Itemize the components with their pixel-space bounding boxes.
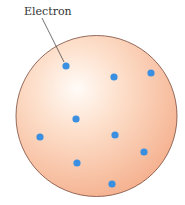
- plum-pudding-diagram: [0, 0, 185, 205]
- electron-dot: [140, 148, 147, 155]
- electron-dot: [110, 73, 117, 80]
- electron-label: Electron: [24, 5, 72, 18]
- positive-sphere: [16, 36, 177, 197]
- electron-dot: [72, 115, 79, 122]
- electron-dot: [36, 133, 43, 140]
- electron-dot: [73, 159, 80, 166]
- electron-dot: [111, 131, 118, 138]
- electron-dot: [108, 180, 115, 187]
- electron-dot: [62, 62, 69, 69]
- electron-dot: [147, 69, 154, 76]
